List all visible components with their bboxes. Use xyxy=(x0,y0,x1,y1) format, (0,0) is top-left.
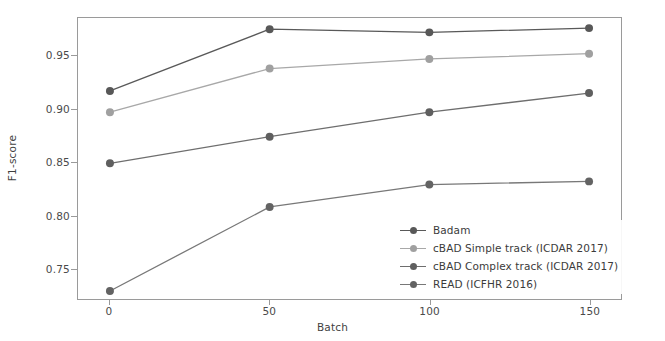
legend-item-4[interactable]: READ (ICFHR 2016) xyxy=(400,276,618,292)
x-axis-label: Batch xyxy=(0,321,665,333)
legend-dot-icon xyxy=(410,281,417,288)
x-tick-label: 50 xyxy=(239,305,299,317)
y-tick-label: 0.75 xyxy=(10,263,70,275)
legend-marker-icon xyxy=(400,224,426,236)
y-tick-mark xyxy=(71,162,77,163)
chart-legend: BadamcBAD Simple track (ICDAR 2017)cBAD … xyxy=(396,220,622,294)
legend-label: Badam xyxy=(433,224,470,236)
legend-item-2[interactable]: cBAD Simple track (ICDAR 2017) xyxy=(400,240,618,256)
data-point xyxy=(425,55,433,63)
series-3 xyxy=(106,89,593,167)
data-point xyxy=(425,181,433,189)
x-tick-label: 150 xyxy=(560,305,620,317)
data-point xyxy=(266,203,274,211)
x-tick-mark xyxy=(430,300,431,305)
series-line xyxy=(110,28,589,91)
data-point xyxy=(425,108,433,116)
y-tick-label: 0.80 xyxy=(10,210,70,222)
y-tick-label: 0.95 xyxy=(10,49,70,61)
legend-marker-icon xyxy=(400,242,426,254)
x-tick-label: 100 xyxy=(400,305,460,317)
y-tick-mark xyxy=(71,269,77,270)
legend-marker-icon xyxy=(400,278,426,290)
y-tick-mark xyxy=(71,216,77,217)
legend-dot-icon xyxy=(410,263,417,270)
legend-marker-icon xyxy=(400,260,426,272)
y-axis-label: F1-score xyxy=(6,135,18,181)
series-line xyxy=(110,93,589,163)
data-point xyxy=(585,24,593,32)
figure-canvas: 0.750.800.850.900.95 050100150 F1-score … xyxy=(0,0,665,341)
data-point xyxy=(425,28,433,36)
data-point xyxy=(585,89,593,97)
data-point xyxy=(106,87,114,95)
series-1 xyxy=(106,24,593,95)
legend-dot-icon xyxy=(410,227,417,234)
data-point xyxy=(106,159,114,167)
legend-item-3[interactable]: cBAD Complex track (ICDAR 2017) xyxy=(400,258,618,274)
legend-dot-icon xyxy=(410,245,417,252)
data-point xyxy=(266,65,274,73)
x-tick-label: 0 xyxy=(79,305,139,317)
x-tick-mark xyxy=(269,300,270,305)
x-tick-mark xyxy=(590,300,591,305)
data-point xyxy=(106,287,114,295)
legend-label: cBAD Simple track (ICDAR 2017) xyxy=(433,242,608,254)
y-tick-mark xyxy=(71,109,77,110)
y-tick-label: 0.90 xyxy=(10,103,70,115)
x-tick-mark xyxy=(109,300,110,305)
data-point xyxy=(585,50,593,58)
y-tick-label: 0.85 xyxy=(10,156,70,168)
legend-label: cBAD Complex track (ICDAR 2017) xyxy=(433,260,618,272)
legend-item-1[interactable]: Badam xyxy=(400,222,618,238)
legend-label: READ (ICFHR 2016) xyxy=(433,278,537,290)
data-point xyxy=(106,108,114,116)
y-tick-mark xyxy=(71,55,77,56)
data-point xyxy=(266,133,274,141)
series-2 xyxy=(106,50,593,116)
data-point xyxy=(585,177,593,185)
data-point xyxy=(266,25,274,33)
